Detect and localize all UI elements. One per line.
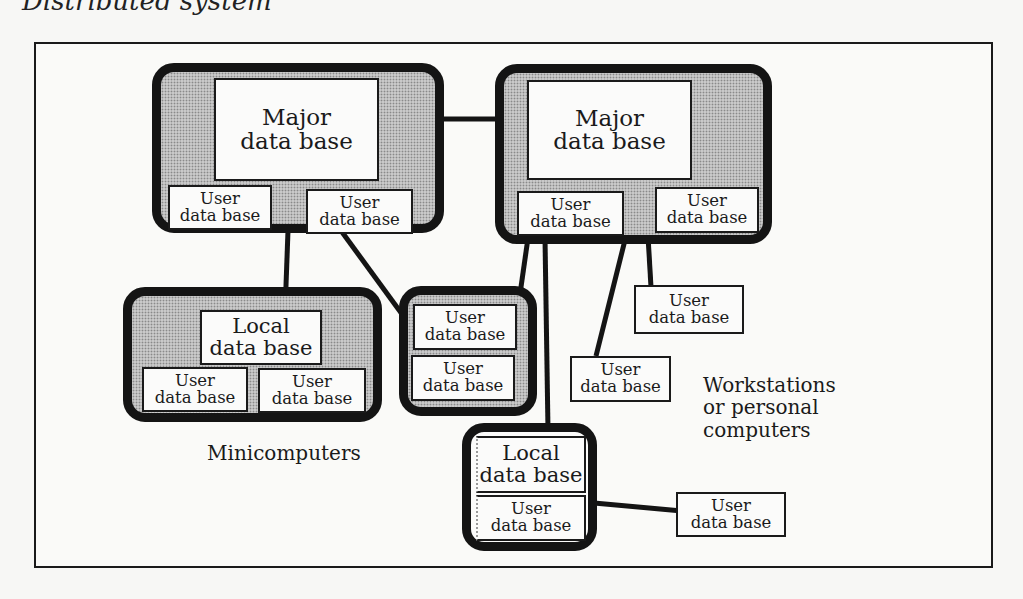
local-database-2[interactable]: Local data base [476,436,586,493]
user-database[interactable]: User data base [168,185,272,230]
major-computer-1: Major data base User data base User data… [152,63,444,233]
user-database[interactable]: User data base [655,187,759,233]
user-database[interactable]: User data base [634,285,744,334]
major-database-2[interactable]: Major data base [527,80,692,180]
user-database[interactable]: User data base [306,189,413,234]
user-database[interactable]: User data base [411,355,515,401]
minicomputer-1: Local data base User data base User data… [123,287,382,422]
major-database-1[interactable]: Major data base [214,78,379,181]
user-database[interactable]: User data base [570,356,671,402]
minicomputer-2: User data base User data base [399,286,537,416]
user-database[interactable]: User data base [676,492,786,537]
user-database[interactable]: User data base [258,368,366,413]
user-database[interactable]: User data base [413,304,517,350]
user-database[interactable]: User data base [476,495,586,541]
local-database-1[interactable]: Local data base [200,310,322,365]
user-database[interactable]: User data base [142,367,248,412]
minicomputers-label: Minicomputers [207,442,361,464]
workstations-label: Workstations or personal computers [703,374,836,441]
major-computer-2: Major data base User data base User data… [495,64,772,244]
workstation-local: Local data base User data base [462,423,597,551]
user-database[interactable]: User data base [517,191,624,236]
